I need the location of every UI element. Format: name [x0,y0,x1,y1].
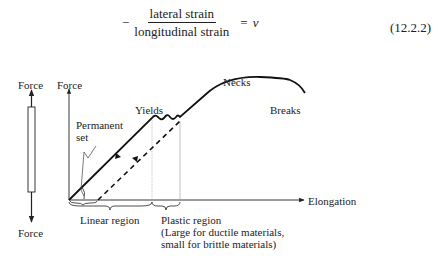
permanent-set-label-line2: set [76,131,88,143]
stress-strain-curve [69,77,305,200]
plastic-region-label-line2: (Large for ductile materials, [161,226,284,238]
bar-force-top-label: Force [18,79,43,91]
linear-region-label: Linear region [80,214,140,226]
x-axis-label: Elongation [308,195,356,207]
plastic-region-label-line3: small for brittle materials) [161,238,276,250]
yields-label: Yields [135,104,163,116]
unloading-arrow-icon [132,156,138,162]
y-axis-label: Force [57,79,82,91]
plastic-region-label-line1: Plastic region [161,214,221,226]
plastic-region-brace [152,202,180,210]
bar-force-bottom-label: Force [18,227,43,239]
unloading-line [98,121,180,200]
necks-label: Necks [223,76,251,88]
permanent-set-label-line1: Permanent [76,119,123,131]
specimen-bar [28,90,35,222]
loading-arrow-icon [115,153,121,159]
linear-region-brace [69,202,152,210]
permanent-set-brace [70,201,97,205]
breaks-label: Breaks [270,104,301,116]
axes [69,89,304,200]
